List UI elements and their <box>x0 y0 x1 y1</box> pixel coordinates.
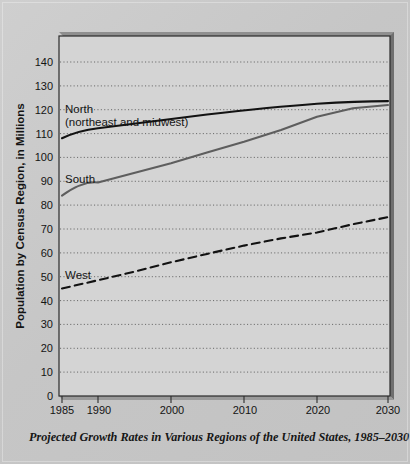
y-tick-120: 120 <box>35 104 53 116</box>
y-tick-50: 50 <box>41 271 53 283</box>
figure-caption: Projected Growth Rates in Various Region… <box>29 430 409 444</box>
y-axis-tick-labels: 140 130 120 110 100 90 80 70 60 50 40 30… <box>35 56 53 402</box>
x-tick-1985: 1985 <box>50 404 74 416</box>
y-tick-70: 70 <box>41 223 53 235</box>
x-axis-tick-labels: 1985 1990 2000 2010 2020 2030 <box>50 404 400 416</box>
y-tick-30: 30 <box>41 318 53 330</box>
x-tick-2010: 2010 <box>233 404 257 416</box>
y-tick-80: 80 <box>41 199 53 211</box>
y-axis-title: Population by Census Region, in Millions <box>14 103 26 329</box>
y-tick-10: 10 <box>41 366 53 378</box>
y-tick-100: 100 <box>35 151 53 163</box>
y-tick-60: 60 <box>41 247 53 259</box>
x-tick-2030: 2030 <box>376 404 400 416</box>
x-tick-2000: 2000 <box>160 404 184 416</box>
plot-area-background <box>59 36 390 396</box>
series-label-south: South <box>65 173 95 185</box>
x-tick-2020: 2020 <box>306 404 330 416</box>
series-label-north-line1: North <box>65 103 93 115</box>
figure-panel: 140 130 120 110 100 90 80 70 60 50 40 30… <box>0 0 410 464</box>
series-label-north-line2: (northeast and midwest) <box>65 116 189 128</box>
y-tick-140: 140 <box>35 56 53 68</box>
y-tick-110: 110 <box>35 128 53 140</box>
y-tick-40: 40 <box>41 295 53 307</box>
y-tick-90: 90 <box>41 175 53 187</box>
y-tick-0: 0 <box>47 390 53 402</box>
line-chart: 140 130 120 110 100 90 80 70 60 50 40 30… <box>0 0 410 464</box>
x-tick-1990: 1990 <box>87 404 111 416</box>
y-tick-20: 20 <box>41 342 53 354</box>
y-tick-130: 130 <box>35 80 53 92</box>
series-label-west: West <box>65 269 92 281</box>
